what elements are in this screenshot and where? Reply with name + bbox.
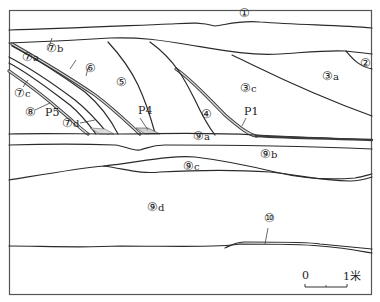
label-layer-8: ⑧ <box>25 106 36 118</box>
label-layer-3c: ③c <box>240 82 257 94</box>
leader-p1 <box>242 118 246 126</box>
boundary-layer1-bottom <box>9 38 372 55</box>
boundary-9d-bottom <box>9 244 372 253</box>
label-layer-2: ② <box>360 57 371 69</box>
label-layer-9a: ⑨a <box>193 130 210 142</box>
boundary-layer1-top <box>9 22 372 30</box>
label-layer-9c: ⑨c <box>183 160 200 172</box>
boundary-p1-inner <box>176 69 256 136</box>
label-p1: P1 <box>244 105 258 118</box>
label-layer-10: ⑩ <box>264 212 275 224</box>
label-layer-4: ④ <box>201 108 212 120</box>
boundary-5-4 <box>150 42 215 135</box>
label-layer-7a: ⑦a <box>22 51 39 63</box>
label-layer-7b: ⑦b <box>46 42 63 54</box>
scale-start-label: 0 <box>302 269 309 282</box>
boundary-9a-9b <box>9 144 372 150</box>
label-layer-5: ⑤ <box>116 76 127 88</box>
section-diagram: ① ② ③a ③c ④ ⑤ ⑥ ⑦a ⑦b ⑦c ⑦d ⑧ ⑨a ⑨b ⑨c ⑨… <box>0 0 380 302</box>
scale-end-label: 1米 <box>343 267 361 283</box>
frame-border <box>10 11 372 295</box>
boundary-9a-right-outer <box>256 136 372 140</box>
label-layer-1: ① <box>239 7 250 19</box>
label-p4: P4 <box>138 104 152 117</box>
label-layer-9b: ⑨b <box>260 148 277 160</box>
boundary-9c-top <box>104 157 372 179</box>
label-layer-3a: ③a <box>322 70 339 82</box>
label-p5: P5 <box>45 106 59 119</box>
label-layer-9d: ⑨d <box>147 201 164 213</box>
label-layer-7d: ⑦d <box>62 117 79 129</box>
label-layer-7c: ⑦c <box>14 87 31 99</box>
label-layer-6: ⑥ <box>85 62 96 74</box>
boundary-layer10-top <box>225 242 372 249</box>
leader-7a <box>70 60 76 69</box>
